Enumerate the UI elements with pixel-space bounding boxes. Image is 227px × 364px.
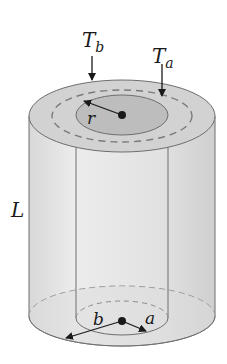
label-b: b [93,309,104,329]
label-a: a [145,308,155,328]
label-T-a: Ta [152,44,174,71]
bottom-center-dot [118,317,126,325]
label-T-b: Tb [82,28,104,55]
center-dot [118,111,126,119]
label-r: r [87,108,96,128]
cylindrical-shell-diagram: Tb Ta r L b a [0,0,227,364]
label-L: L [10,198,24,222]
bottom-base [29,286,215,346]
